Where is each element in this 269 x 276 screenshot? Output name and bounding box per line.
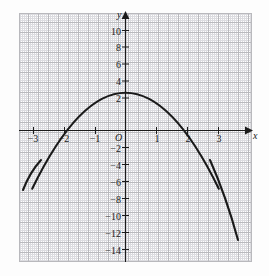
x-axis-label: x <box>253 130 257 141</box>
y-axis-arrow <box>122 11 130 19</box>
plot-canvas <box>0 0 269 276</box>
x-tick-label--2: −2 <box>59 133 70 144</box>
y-tick-label--12: −12 <box>105 228 121 239</box>
parabola-right-tail <box>210 160 238 240</box>
y-tick-label--10: −10 <box>105 211 121 222</box>
x-tick-label--1: −1 <box>90 133 101 144</box>
x-axis-arrow <box>245 127 253 135</box>
y-tick-label-10: 10 <box>111 26 121 37</box>
y-tick-label-2: 2 <box>116 93 121 104</box>
x-tick-label--3: −3 <box>28 133 39 144</box>
x-tick-label-2: 2 <box>186 133 191 144</box>
y-tick-label--2: −2 <box>110 143 121 154</box>
graph-figure: −3 −2 −1 1 2 3 O 10 8 6 4 2 −2 −4 −6 −8 … <box>0 0 269 276</box>
x-tick-label-1: 1 <box>155 133 160 144</box>
y-tick-label-4: 4 <box>116 76 121 87</box>
origin-label: O <box>115 132 122 143</box>
y-tick-label--14: −14 <box>105 245 121 256</box>
y-axis-label: y <box>117 9 121 20</box>
y-tick-label--4: −4 <box>110 160 121 171</box>
y-tick-label-8: 8 <box>116 42 121 53</box>
y-tick-label-6: 6 <box>116 59 121 70</box>
x-tick-label-3: 3 <box>217 133 222 144</box>
y-tick-label--8: −8 <box>110 194 121 205</box>
y-tick-label--6: −6 <box>110 177 121 188</box>
